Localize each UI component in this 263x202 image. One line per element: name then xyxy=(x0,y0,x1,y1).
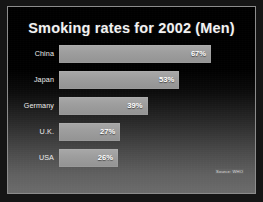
page-title: Smoking rates for 2002 (Men) xyxy=(8,20,255,36)
bar-row-uk: U.K. 27% xyxy=(8,123,256,141)
source-attribution: Source: WHO xyxy=(215,169,244,174)
slide-frame: Smoking rates for 2002 (Men) China 67% J… xyxy=(7,6,256,194)
bar-track-usa: 26% xyxy=(59,149,118,167)
bar-track-germany: 39% xyxy=(59,97,148,115)
bar-value-germany: 39% xyxy=(127,97,142,115)
category-label-japan: Japan xyxy=(8,71,54,89)
bar-track-uk: 27% xyxy=(59,123,120,141)
category-label-uk: U.K. xyxy=(8,123,54,141)
bar-row-japan: Japan 53% xyxy=(8,71,256,89)
bar-track-china: 67% xyxy=(59,45,211,63)
bar-value-china: 67% xyxy=(191,45,206,63)
bar-row-china: China 67% xyxy=(8,45,256,63)
bar-value-japan: 53% xyxy=(159,71,174,89)
category-label-china: China xyxy=(8,45,54,63)
bar-chart-plot-area: China 67% Japan 53% Germany 39% xyxy=(8,45,256,173)
category-label-usa: USA xyxy=(8,149,54,167)
slide-canvas: Smoking rates for 2002 (Men) China 67% J… xyxy=(0,0,263,202)
bar-value-usa: 26% xyxy=(98,149,113,167)
bar-row-usa: USA 26% xyxy=(8,149,256,167)
bar-value-uk: 27% xyxy=(100,123,115,141)
bar-track-japan: 53% xyxy=(59,71,179,89)
category-label-germany: Germany xyxy=(8,97,54,115)
bar-fill-china xyxy=(59,45,211,63)
bar-row-germany: Germany 39% xyxy=(8,97,256,115)
